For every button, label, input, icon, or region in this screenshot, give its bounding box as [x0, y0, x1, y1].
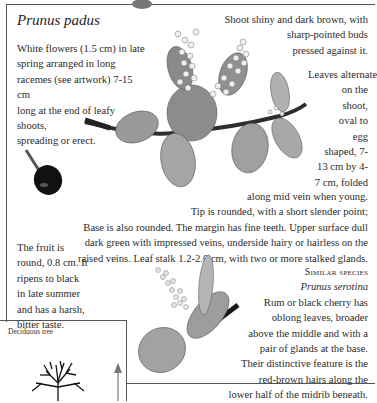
leaves-line: 13 cm by 4- [308, 159, 368, 174]
leaves-line: Base is also rounded. The margin has fin… [68, 220, 368, 235]
prunus-serotina-illustration [128, 245, 248, 375]
fruit-line: in late summer [17, 286, 91, 301]
fruit-line: and has a harsh, [17, 302, 91, 317]
fruit-illustration [20, 140, 80, 200]
flowering-branch-illustration [80, 0, 310, 195]
leaves-line: egg [308, 129, 368, 144]
leaves-line: Leaves alternate [308, 67, 368, 82]
bottom-divider [127, 383, 375, 384]
frame-left-border [6, 4, 7, 322]
leaves-line: on the [308, 82, 368, 97]
leaves-line: 7 cm, folded [308, 175, 368, 190]
leaves-line: shaped, 7- [308, 144, 368, 159]
fruit-line: The fruit is [17, 240, 91, 255]
fruit-line: round, 0.8 cm. It [17, 255, 91, 270]
fruit-paragraph: The fruit is round, 0.8 cm. It ripens to… [17, 240, 91, 332]
leaves-line: shoot, [308, 98, 368, 113]
tree-silhouette-icon [28, 361, 88, 401]
fruit-line: ripens to black [17, 271, 91, 286]
similar-line: lower half of the midrib beneath. [168, 387, 368, 402]
tree-type-box: Deciduous tree [0, 320, 127, 401]
tree-type-label: Deciduous tree [8, 327, 53, 336]
height-arrow-icon [113, 361, 123, 401]
leaves-line: Tip is rounded, with a short slender poi… [68, 204, 368, 219]
leaves-paragraph-narrow: Leaves alternate on the shoot, oval to e… [308, 67, 368, 190]
leaves-line: oval to [308, 113, 368, 128]
